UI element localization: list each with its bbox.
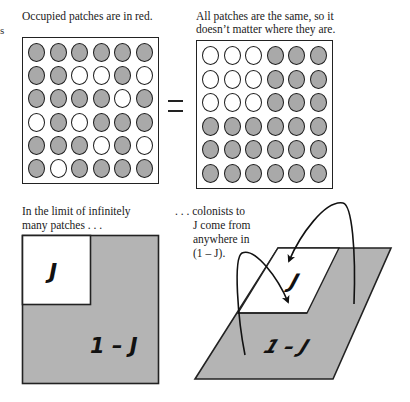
label-one-minus-j-plane: 1 – J bbox=[260, 336, 312, 358]
continuum-diagram: J 1 – J J 1 – J bbox=[0, 0, 410, 402]
label-one-minus-j: 1 – J bbox=[90, 334, 138, 358]
continuum-square: J 1 – J bbox=[23, 236, 159, 384]
perspective-plane: J 1 – J bbox=[195, 248, 391, 379]
